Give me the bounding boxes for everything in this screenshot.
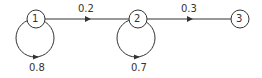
edge-2-3-label: 0.3 [181, 4, 197, 14]
node-1-label: 1 [32, 14, 38, 24]
node-3-label: 3 [236, 14, 242, 24]
self-loop-1-label: 0.8 [29, 63, 45, 73]
edge-1-2-label: 0.2 [78, 4, 94, 14]
self-loop-2-label: 0.7 [131, 63, 147, 73]
node-2-label: 2 [134, 14, 140, 24]
